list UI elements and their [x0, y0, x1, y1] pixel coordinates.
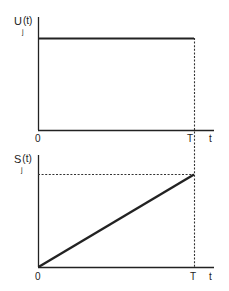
top-ylabel: U(t) [14, 15, 32, 27]
top-plot: U(t) j 0 T t [14, 15, 214, 267]
bottom-T-label: T [190, 271, 196, 282]
bottom-t-axis-label: t [209, 271, 212, 282]
bottom-origin-label: 0 [35, 271, 41, 282]
top-T-label: T [187, 133, 193, 144]
top-origin-label: 0 [35, 133, 41, 144]
bottom-ylabel: S(t) [14, 153, 32, 165]
bottom-ylabel-subscript: j [20, 166, 23, 174]
bottom-plot: S(t) j 0 T t [14, 153, 214, 282]
diagram: U(t) j 0 T t S(t) j 0 T t [0, 0, 229, 291]
ramp-signal-line [39, 175, 195, 268]
top-t-axis-label: t [209, 133, 212, 144]
top-ylabel-subscript: j [21, 28, 24, 36]
